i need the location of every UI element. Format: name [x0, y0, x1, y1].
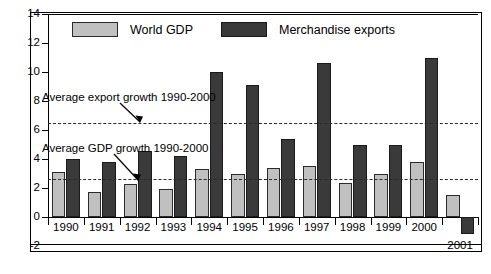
y-axis-label: 14: [16, 8, 40, 20]
y-axis-label: 8: [16, 95, 40, 107]
annotation-arrow-export: [118, 102, 158, 128]
x-axis-label-1997: 1997: [299, 222, 335, 234]
y-axis-label: 12: [16, 37, 40, 49]
y-axis-tick: [42, 43, 49, 44]
bar-world-gdp-1999: [374, 174, 388, 217]
y-axis-tick: [42, 72, 49, 73]
x-axis-label-1999: 1999: [371, 222, 407, 234]
bar-merchandise-exports-1998: [353, 145, 367, 217]
y-axis-label: 6: [16, 124, 40, 136]
x-axis-label-2001: 2001: [442, 240, 478, 252]
x-axis-label-2000: 2000: [406, 222, 442, 234]
x-axis-tick: [478, 217, 479, 225]
y-axis-tick: [42, 130, 49, 131]
x-axis-label-1990: 1990: [48, 222, 84, 234]
bar-world-gdp-1996: [267, 168, 281, 217]
bar-world-gdp-1994: [195, 169, 209, 217]
y-axis-label: 2: [16, 182, 40, 194]
x-axis-label-1992: 1992: [120, 222, 156, 234]
chart-legend: World GDP Merchandise exports: [72, 22, 423, 37]
x-axis-label-1991: 1991: [84, 222, 120, 234]
x-axis-label-1995: 1995: [227, 222, 263, 234]
bar-merchandise-exports-2001: [461, 217, 475, 234]
legend-label-merchandise-exports: Merchandise exports: [279, 23, 395, 37]
reference-line-export-average: [48, 123, 478, 124]
legend-label-world-gdp: World GDP: [130, 23, 193, 37]
y-axis-label: 10: [16, 66, 40, 78]
chart-figure: 14121086420-2 World GDP Merchandise expo…: [0, 0, 491, 274]
legend-swatch-merchandise-exports: [221, 22, 267, 37]
bar-world-gdp-1998: [339, 183, 353, 217]
bar-world-gdp-1992: [124, 184, 138, 217]
bar-merchandise-exports-2000: [425, 58, 439, 218]
bar-world-gdp-1997: [303, 166, 317, 217]
x-axis-label-1998: 1998: [335, 222, 371, 234]
bar-world-gdp-1993: [159, 189, 173, 217]
bar-merchandise-exports-1999: [389, 145, 403, 217]
legend-swatch-world-gdp: [72, 22, 118, 37]
bar-merchandise-exports-1990: [66, 159, 80, 217]
y-axis-tick: [42, 159, 49, 160]
y-axis-tick: [42, 101, 49, 102]
bar-merchandise-exports-1997: [317, 63, 331, 217]
x-axis-label-1994: 1994: [191, 222, 227, 234]
y-axis-tick: [42, 188, 49, 189]
x-axis-label-1996: 1996: [263, 222, 299, 234]
bar-merchandise-exports-1993: [174, 156, 188, 217]
bar-merchandise-exports-1995: [246, 85, 260, 217]
bar-world-gdp-1991: [88, 192, 102, 217]
y-axis-label: 4: [16, 153, 40, 165]
bar-world-gdp-2001: [446, 195, 460, 217]
x-axis-tick: [442, 217, 443, 225]
annotation-arrow-gdp: [112, 153, 160, 186]
bar-merchandise-exports-1996: [281, 139, 295, 217]
bar-world-gdp-2000: [410, 162, 424, 217]
x-axis-label-1993: 1993: [156, 222, 192, 234]
y-axis-tick: [42, 14, 49, 15]
